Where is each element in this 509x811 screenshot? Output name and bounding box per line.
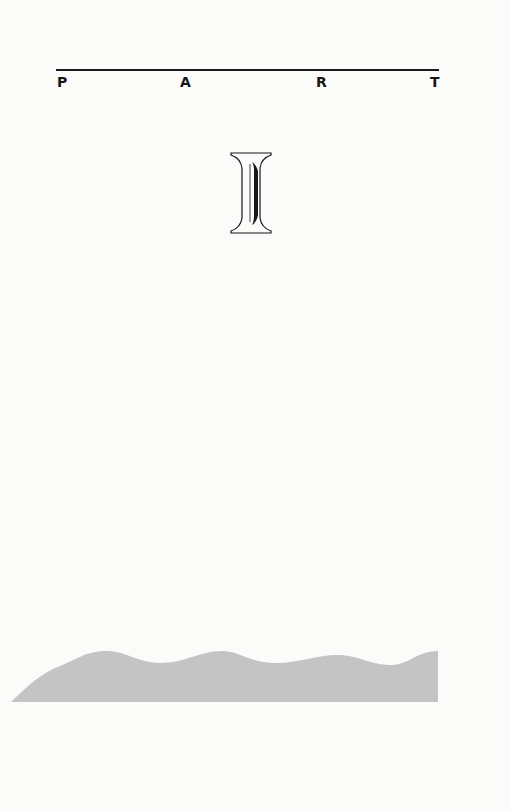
- top-rule: [56, 69, 439, 71]
- part-letter-r: R: [316, 74, 327, 90]
- part-letter-p: P: [57, 74, 67, 90]
- part-letter-a: A: [180, 74, 191, 90]
- wave-decoration: [0, 640, 509, 710]
- roman-numeral-one-graphic: [228, 152, 274, 234]
- part-letter-t: T: [430, 74, 440, 90]
